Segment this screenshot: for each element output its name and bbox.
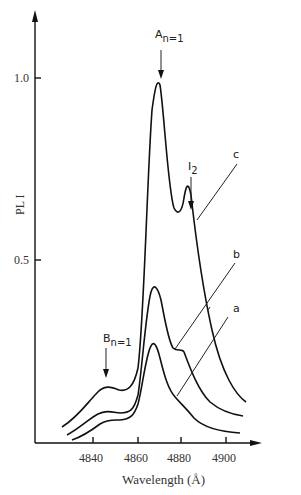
leader-c bbox=[197, 164, 237, 220]
curve-b bbox=[67, 287, 243, 435]
curve-label-a: a bbox=[233, 302, 240, 315]
y-axis-label: PL I bbox=[13, 194, 27, 215]
chart: 1.0 0.5 PL I 4840 4860 4880 4900 Wavelen… bbox=[0, 0, 301, 495]
annotation-a-n1: An=1 bbox=[155, 28, 184, 44]
x-tick-label-4900: 4900 bbox=[212, 451, 236, 465]
x-tick-label-4840: 4840 bbox=[79, 451, 103, 465]
x-tick-label-4880: 4880 bbox=[167, 451, 191, 465]
y-tick-label-1.0: 1.0 bbox=[14, 71, 29, 85]
x-axis-arrow-icon bbox=[250, 440, 262, 446]
y-tick-label-0.5: 0.5 bbox=[14, 253, 29, 267]
curve-c bbox=[62, 83, 246, 427]
y-axis-arrow-icon bbox=[32, 10, 38, 22]
arrow-down-icon bbox=[103, 369, 109, 378]
leader-a bbox=[177, 317, 228, 396]
curve-label-c: c bbox=[233, 148, 239, 161]
x-tick-label-4860: 4860 bbox=[124, 451, 148, 465]
annotation-i2: I2 bbox=[188, 160, 198, 176]
arrow-down-icon bbox=[158, 70, 164, 79]
curve-label-b: b bbox=[233, 248, 240, 261]
leader-b bbox=[175, 263, 235, 349]
annotation-b-n1: Bn=1 bbox=[103, 332, 132, 348]
x-axis-label: Wavelength (Å) bbox=[122, 472, 205, 487]
